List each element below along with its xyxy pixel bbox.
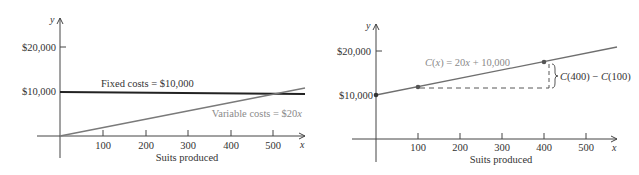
- right-ytick-10k-label: $10,000: [339, 90, 373, 101]
- brace-icon: [552, 64, 558, 88]
- left-xticks: [103, 130, 273, 136]
- left-chart: y x $20,000 $10,000 100 200 300 400 500 …: [22, 14, 305, 163]
- left-variable-label: Variable costs = $20x: [212, 108, 303, 119]
- left-fixed-costs-line: [60, 92, 305, 94]
- right-x-label: Suits produced: [470, 154, 533, 165]
- left-y-symbol: y: [49, 14, 55, 25]
- left-fixed-label: Fixed costs = $10,000: [101, 78, 194, 89]
- right-x-symbol: x: [611, 142, 617, 153]
- right-xtick-500: 500: [578, 142, 594, 153]
- right-chart: y x $20,000 $10,000 100 200 300 400 500 …: [337, 20, 631, 165]
- left-xtick-300: 300: [180, 140, 196, 151]
- point-400: [542, 60, 547, 65]
- point-100: [416, 85, 421, 90]
- left-xtick-100: 100: [95, 140, 111, 151]
- figure: y x $20,000 $10,000 100 200 300 400 500 …: [0, 0, 639, 175]
- right-ytick-20k-label: $20,000: [337, 46, 371, 57]
- point-0: [374, 93, 379, 98]
- left-x-symbol: x: [299, 139, 305, 150]
- left-xtick-200: 200: [138, 140, 154, 151]
- left-xtick-500: 500: [265, 140, 281, 151]
- left-ytick-20k-label: $20,000: [22, 42, 56, 53]
- right-y-symbol: y: [365, 20, 371, 31]
- right-xtick-400: 400: [536, 142, 552, 153]
- right-xtick-300: 300: [494, 142, 510, 153]
- right-xtick-200: 200: [452, 142, 468, 153]
- right-xticks: [418, 133, 586, 139]
- difference-label: C(400) − C(100): [560, 71, 631, 83]
- left-x-label: Suits produced: [156, 152, 219, 163]
- cost-function-label: C(x) = 20x + 10,000: [425, 57, 510, 69]
- right-xtick-100: 100: [410, 142, 426, 153]
- left-ytick-10k-label: $10,000: [22, 86, 56, 97]
- left-xtick-400: 400: [223, 140, 239, 151]
